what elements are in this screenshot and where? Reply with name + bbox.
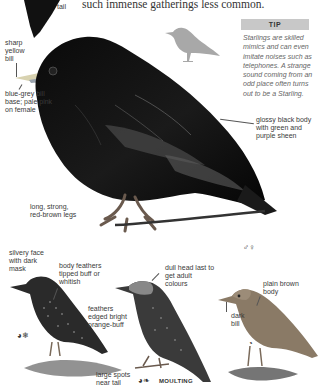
label-dull-head: dull head last to get adult colours: [165, 264, 215, 288]
leader-bill: [16, 63, 17, 77]
label-legs: long, strong, red-brown legs: [30, 203, 80, 219]
leaf-icon: ❧: [143, 376, 150, 385]
winter-starling-illustration: [10, 272, 130, 387]
moulting-symbols: ◕❧: [138, 376, 150, 385]
label-silvery-face: silvery face with dark mask: [9, 249, 49, 273]
leader-dark-bill: [226, 302, 227, 312]
moulting-starling-illustration: [115, 278, 225, 389]
tail-label: tail: [57, 3, 66, 11]
label-body-feathers: body feathers tipped buff or whitish: [59, 262, 103, 286]
intro-text: such immense gatherings less common.: [82, 0, 264, 10]
label-dark-bill: dark bill: [231, 312, 249, 328]
tail-illustration: [22, 0, 62, 40]
moulting-caption: MOULTING: [159, 378, 193, 384]
juvenile-season-icon: ◔: [248, 339, 253, 348]
female-icon: ♀: [249, 243, 255, 252]
male-female-symbols: ♂♀: [243, 243, 255, 252]
label-bill: sharp yellow bill: [5, 39, 33, 63]
tip-heading: TIP: [241, 19, 309, 30]
juvenile-starling-illustration: [218, 286, 323, 389]
season-symbols: ◕❄: [17, 331, 29, 340]
winter-icon: ❄: [22, 331, 29, 340]
label-plain-brown: plain brown body: [263, 280, 303, 296]
label-bill-base: blue-grey bill base; pale pink on female: [5, 90, 53, 114]
label-body: glossy black body with green and purple …: [256, 116, 322, 140]
